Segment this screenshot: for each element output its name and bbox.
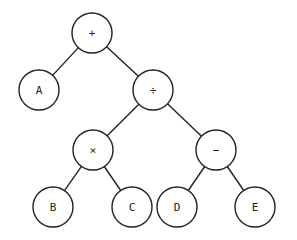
node-label: ÷ [150, 84, 157, 97]
tree-nodes: +A÷×−BCDE [19, 13, 275, 227]
edge-times-C [104, 167, 120, 191]
tree-node-minus: − [196, 130, 236, 170]
node-label: E [252, 201, 259, 214]
tree-node-A: A [19, 70, 59, 110]
edge-minus-D [188, 167, 204, 191]
tree-node-C: C [112, 187, 152, 227]
node-label: A [36, 84, 43, 97]
node-label: C [129, 201, 136, 214]
edge-div-times [107, 104, 139, 136]
tree-node-plus: + [72, 13, 112, 53]
edge-plus-A [53, 48, 79, 76]
node-label: D [174, 201, 181, 214]
node-label: × [90, 144, 97, 157]
node-label: − [213, 144, 220, 157]
tree-node-E: E [235, 187, 275, 227]
tree-node-times: × [73, 130, 113, 170]
node-label: + [89, 27, 96, 40]
tree-node-B: B [33, 187, 73, 227]
edge-div-minus [167, 104, 201, 136]
edge-times-B [64, 166, 81, 190]
edge-plus-div [107, 47, 139, 77]
expression-tree-diagram: +A÷×−BCDE [0, 0, 297, 240]
edge-minus-E [227, 167, 243, 191]
node-label: B [50, 201, 57, 214]
tree-node-div: ÷ [133, 70, 173, 110]
tree-node-D: D [157, 187, 197, 227]
